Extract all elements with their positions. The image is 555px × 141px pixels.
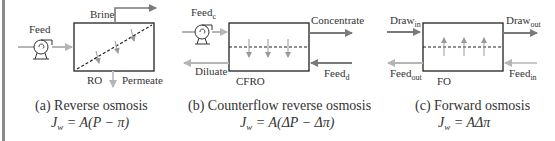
draw-out-label: Drawout — [506, 14, 541, 29]
equation-ro: Jw = A(P − π) — [51, 115, 129, 132]
fo-module-label: FO — [437, 75, 451, 87]
diluate-label: Diluate — [195, 65, 227, 77]
feed-label: Feed — [29, 23, 51, 35]
caption-ro: (a) Reverse osmosis — [35, 98, 148, 114]
panel-cfro: Feedc Concentrate Feedd Diluate CFRO (b)… — [182, 6, 371, 132]
cfro-module-label: CFRO — [236, 75, 265, 87]
caption-cfro: (b) Counterflow reverse osmosis — [188, 98, 371, 114]
brine-line — [115, 8, 150, 23]
equation-fo: Jw = AΔπ — [438, 115, 491, 132]
caption-fo: (c) Forward osmosis — [415, 98, 530, 114]
brine-label: Brine — [90, 8, 115, 20]
feed-out-label: Feedout — [390, 67, 422, 82]
feed-c-label: Feedc — [191, 6, 216, 21]
equation-cfro: Jw = A(ΔP − Δπ) — [240, 115, 335, 132]
pump-icon — [195, 25, 212, 44]
panel-ro: Feed Brine RO Permeate (a) Reverse osmos… — [18, 8, 163, 132]
pump-icon — [33, 40, 52, 59]
draw-in-label: Drawin — [390, 14, 421, 29]
concentrate-label: Concentrate — [311, 14, 364, 26]
panel-fo: Drawin Drawout Feedin Feedout FO (c) For… — [387, 14, 541, 132]
permeate-label: Permeate — [122, 74, 163, 86]
osmosis-diagrams: Feed Brine RO Permeate (a) Reverse osmos… — [0, 0, 555, 141]
feed-d-label: Feedd — [324, 67, 349, 82]
feed-in-label: Feedin — [509, 67, 537, 82]
ro-module-label: RO — [87, 74, 102, 86]
